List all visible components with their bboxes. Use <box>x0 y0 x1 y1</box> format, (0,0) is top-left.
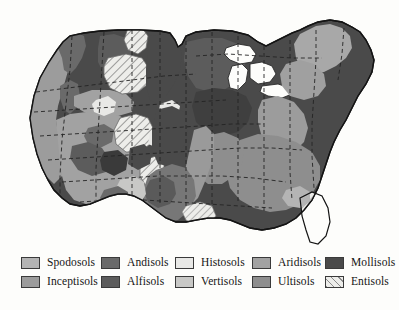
soil-orders-map <box>0 0 399 248</box>
legend-entry-ultisols[interactable]: Ultisols <box>252 272 325 291</box>
legend-swatch-histosols <box>175 257 194 269</box>
map-landmass <box>26 20 374 244</box>
figure-page: Spodosols Andisols Histosols Aridisols M… <box>0 0 399 310</box>
legend-label-spodosols: Spodosols <box>47 256 95 269</box>
legend-entry-vertisols[interactable]: Vertisols <box>175 272 252 291</box>
legend-label-histosols: Histosols <box>201 256 245 269</box>
legend-entry-mollisols[interactable]: Mollisols <box>325 253 395 272</box>
legend-row-top: Spodosols Andisols Histosols Aridisols M… <box>0 253 399 272</box>
legend-row-bottom: Inceptisols Alfisols Vertisols Ultisols … <box>0 272 399 291</box>
map-canvas <box>0 0 399 248</box>
legend-swatch-vertisols <box>175 276 194 288</box>
legend-label-ultisols: Ultisols <box>278 275 315 288</box>
legend-label-inceptisols: Inceptisols <box>47 275 98 288</box>
legend-swatch-ultisols <box>252 276 271 288</box>
legend-label-entisols: Entisols <box>351 275 389 288</box>
legend-entry-spodosols[interactable]: Spodosols <box>21 253 101 272</box>
legend-swatch-entisols <box>325 276 344 288</box>
map-legend: Spodosols Andisols Histosols Aridisols M… <box>0 248 399 310</box>
region-entisols-greatbasin <box>104 54 150 94</box>
legend-swatch-spodosols <box>21 257 40 269</box>
legend-entry-inceptisols[interactable]: Inceptisols <box>21 272 101 291</box>
legend-entry-histosols[interactable]: Histosols <box>175 253 252 272</box>
legend-label-alfisols: Alfisols <box>127 275 164 288</box>
legend-entry-aridisols[interactable]: Aridisols <box>252 253 325 272</box>
legend-entry-entisols[interactable]: Entisols <box>325 272 395 291</box>
legend-label-aridisols: Aridisols <box>278 256 321 269</box>
legend-swatch-aridisols <box>252 257 271 269</box>
legend-entry-alfisols[interactable]: Alfisols <box>101 272 175 291</box>
legend-swatch-andisols <box>101 257 120 269</box>
legend-swatch-mollisols <box>325 257 344 269</box>
legend-label-andisols: Andisols <box>127 256 169 269</box>
legend-swatch-inceptisols <box>21 276 40 288</box>
legend-label-mollisols: Mollisols <box>351 256 395 269</box>
legend-swatch-alfisols <box>101 276 120 288</box>
legend-label-vertisols: Vertisols <box>201 275 242 288</box>
legend-entry-andisols[interactable]: Andisols <box>101 253 175 272</box>
